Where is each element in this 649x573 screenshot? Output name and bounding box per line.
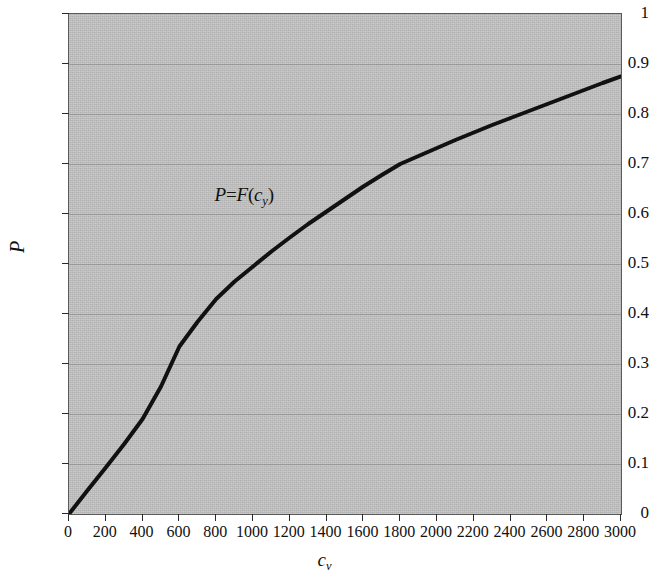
x-tick-mark [510,514,511,521]
y-tick-label: 0.5 [593,254,649,271]
y-tick-mark [62,413,69,414]
y-tick-mark [62,13,69,14]
annotation-f: F [237,184,248,205]
y-tick-mark [62,63,69,64]
chart-figure: 10.90.80.70.60.50.40.30.20.10 0200400600… [0,0,649,573]
y-tick-mark [62,113,69,114]
y-tick-label: 0.1 [593,454,649,471]
y-tick-label: 0 [593,504,649,521]
y-tick-mark [62,463,69,464]
x-axis-label-base: c [318,549,326,570]
x-axis-label-subscript: v [326,559,332,573]
x-tick-mark [473,514,474,521]
x-tick-mark [142,514,143,521]
plot-area [68,13,622,515]
y-tick-mark [62,163,69,164]
x-tick-mark [178,514,179,521]
y-tick-label: 0.4 [593,304,649,321]
y-tick-label: 0.6 [593,204,649,221]
x-tick-mark [326,514,327,521]
data-curve-line [69,77,621,515]
annotation-close-paren: ) [268,184,274,205]
annotation-p: P [215,184,226,205]
x-tick-mark [252,514,253,521]
y-tick-label: 0.2 [593,404,649,421]
y-tick-label: 0.9 [593,54,649,71]
curve-svg [69,14,621,514]
y-tick-label: 1 [593,4,649,21]
x-tick-mark [546,514,547,521]
x-tick-mark [436,514,437,521]
y-tick-mark [62,363,69,364]
x-tick-mark [289,514,290,521]
x-tick-mark [68,514,69,521]
curve-annotation: P=F(cy) [215,184,274,209]
y-tick-label: 0.7 [593,154,649,171]
x-tick-mark [620,514,621,521]
y-axis-label: P [6,241,29,253]
y-tick-mark [62,213,69,214]
x-tick-mark [105,514,106,521]
y-tick-mark [62,263,69,264]
x-tick-label: 3000 [597,524,643,540]
x-tick-mark [362,514,363,521]
y-tick-label: 0.8 [593,104,649,121]
y-tick-mark [62,313,69,314]
y-tick-label: 0.3 [593,354,649,371]
x-tick-mark [215,514,216,521]
annotation-equals: = [226,184,237,205]
x-tick-mark [583,514,584,521]
x-axis-label: cv [0,549,649,573]
x-tick-mark [399,514,400,521]
